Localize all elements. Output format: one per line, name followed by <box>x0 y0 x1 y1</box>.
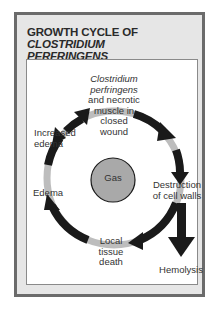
stage-start-line6: wound <box>76 127 152 138</box>
stage-destruction-line1: Destruction <box>148 180 206 191</box>
stage-start-label: Clostridium perfringens and necrotic mus… <box>76 74 152 137</box>
hemolysis-arrowhead <box>168 237 195 257</box>
hemolysis-label: Hemolysis <box>155 265 207 276</box>
stage-tissue-death-line3: death <box>91 257 131 268</box>
stage-destruction-line2: of cell walls <box>148 191 206 202</box>
arrowhead-1 <box>157 122 176 141</box>
stage-increased-edema-line1: Increased <box>34 128 80 139</box>
stage-tissue-death-line1: Local <box>91 236 131 247</box>
stage-edema-label: Edema <box>33 188 73 199</box>
stage-start-line5: closed <box>76 116 152 127</box>
arrow-seg-4 <box>52 206 88 240</box>
hemolysis-arrow-shaft <box>177 203 186 239</box>
stage-increased-edema-line2: edema <box>34 139 80 150</box>
stage-start-line1: Clostridium <box>76 74 152 85</box>
stage-tissue-death-label: Local tissue death <box>91 236 131 268</box>
stage-start-line3: and necrotic <box>76 95 152 106</box>
gas-label: Gas <box>95 173 131 184</box>
stage-increased-edema-label: Increased edema <box>34 128 80 149</box>
arrow-seg-2 <box>176 150 180 172</box>
arrow-seg-3 <box>140 203 176 240</box>
stage-destruction-label: Destruction of cell walls <box>148 180 206 201</box>
